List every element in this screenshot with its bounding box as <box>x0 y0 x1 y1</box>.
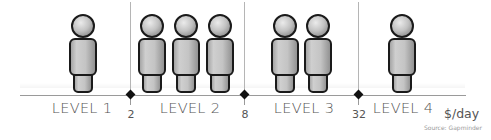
diamond-marker-icon <box>240 90 250 100</box>
level-3-label: LEVEL 3 <box>274 100 334 116</box>
divider-level-3-4 <box>358 2 359 95</box>
person-icon <box>170 14 202 94</box>
person-icon <box>269 14 301 94</box>
diamond-marker-icon <box>354 90 364 100</box>
diamond-marker-icon <box>126 90 136 100</box>
level-1-label: LEVEL 1 <box>52 100 112 116</box>
threshold-label-8: 8 <box>242 108 249 121</box>
person-icon <box>204 14 236 94</box>
person-icon <box>302 14 334 94</box>
person-icon <box>136 14 168 94</box>
level-2-label: LEVEL 2 <box>160 100 220 116</box>
person-icon <box>386 14 418 94</box>
unit-label: $/day <box>444 106 479 121</box>
income-levels-diagram: LEVEL 1 LEVEL 2 LEVEL 3 LEVEL 4 2 8 32 $… <box>0 0 491 140</box>
divider-level-2-3 <box>244 2 245 95</box>
level-4-label: LEVEL 4 <box>373 100 433 116</box>
source-label: Source: Gapminder <box>424 124 482 131</box>
threshold-label-2: 2 <box>128 108 135 121</box>
threshold-label-32: 32 <box>352 108 366 121</box>
divider-level-1-2 <box>130 2 131 95</box>
person-icon <box>67 14 99 94</box>
